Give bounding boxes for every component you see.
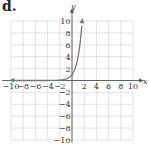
- y-axis-label: y: [70, 2, 76, 11]
- x-tick-label: −6: [30, 82, 42, 91]
- x-tick-label: −4: [42, 82, 54, 91]
- x-axis-label: x: [143, 77, 148, 86]
- y-tick-label: 8: [65, 29, 70, 38]
- x-tick-label: 4: [94, 82, 99, 91]
- y-tick-label: −4: [59, 100, 71, 109]
- x-tick-label: 10: [128, 82, 138, 91]
- y-tick-label: −8: [59, 124, 71, 133]
- curve: [9, 18, 84, 82]
- y-tick-label: 10: [60, 17, 70, 26]
- x-tick-label: 6: [106, 82, 111, 91]
- y-tick-label: 2: [65, 65, 70, 74]
- x-tick-label: 2: [82, 82, 87, 91]
- axes: xy: [2, 2, 148, 143]
- coordinate-plane: xy −10−8−6−4−2246810108642−2−4−6−8−10: [0, 0, 149, 146]
- x-tick-label: 8: [118, 82, 123, 91]
- y-tick-label: −6: [59, 112, 71, 121]
- y-tick-label: −10: [54, 136, 71, 145]
- y-tick-label: 6: [65, 41, 70, 50]
- exponential-curve: [12, 26, 82, 81]
- y-tick-label: −2: [59, 88, 71, 97]
- y-tick-label: 4: [65, 53, 70, 62]
- x-tick-label: −8: [17, 82, 29, 91]
